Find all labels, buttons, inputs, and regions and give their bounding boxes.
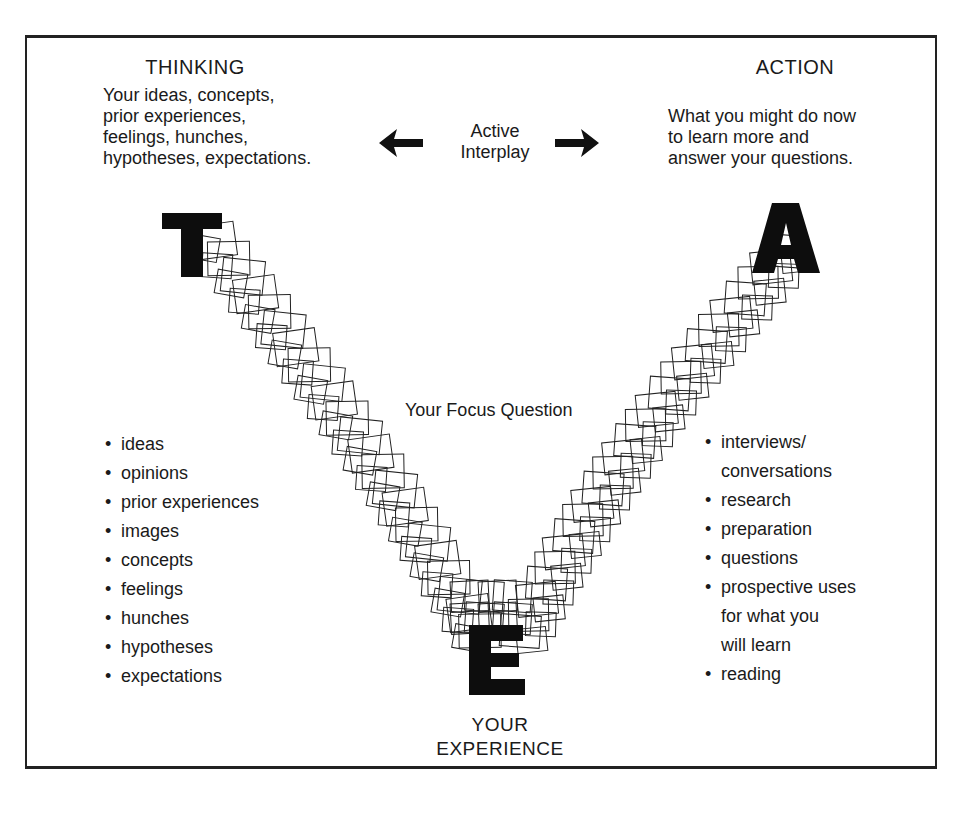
list-item: interviews/	[705, 428, 856, 457]
arrow-left-icon	[379, 127, 425, 159]
list-item: opinions	[105, 459, 259, 488]
letter-t-icon	[162, 213, 232, 283]
interplay-line: Interplay	[445, 142, 545, 163]
letter-e-icon	[469, 625, 529, 697]
list-item: prospective uses	[705, 573, 856, 602]
action-description-line: What you might do now	[668, 106, 928, 127]
thinking-heading: THINKING	[100, 56, 290, 79]
experience-label: YOUR EXPERIENCE	[400, 713, 600, 761]
thinking-description-line: prior experiences,	[103, 106, 403, 127]
list-item: expectations	[105, 662, 259, 691]
list-item: ideas	[105, 430, 259, 459]
list-item: concepts	[105, 546, 259, 575]
action-description-line: to learn more and	[668, 127, 928, 148]
list-item: questions	[705, 544, 856, 573]
letter-a-icon	[750, 195, 825, 275]
list-item-continuation: will learn	[705, 631, 856, 660]
experience-line: YOUR	[400, 713, 600, 737]
thinking-description-line: Your ideas, concepts,	[103, 85, 403, 106]
action-heading: ACTION	[720, 56, 870, 79]
thinking-list: ideas opinions prior experiences images …	[105, 430, 259, 691]
list-item: preparation	[705, 515, 856, 544]
list-item: feelings	[105, 575, 259, 604]
thinking-description-line: hypotheses, expectations.	[103, 148, 403, 169]
interplay-line: Active	[445, 121, 545, 142]
list-item: reading	[705, 660, 856, 689]
active-interplay-label: Active Interplay	[445, 121, 545, 163]
action-list: interviews/ conversations research prepa…	[705, 428, 856, 689]
list-item: hunches	[105, 604, 259, 633]
focus-question-label: Your Focus Question	[405, 400, 605, 421]
list-item-continuation: for what you	[705, 602, 856, 631]
action-description: What you might do now to learn more and …	[668, 106, 928, 169]
arrow-right-icon	[553, 127, 599, 159]
action-description-line: answer your questions.	[668, 148, 928, 169]
list-item: research	[705, 486, 856, 515]
list-item-continuation: conversations	[705, 457, 856, 486]
list-item: prior experiences	[105, 488, 259, 517]
list-item: images	[105, 517, 259, 546]
thinking-description: Your ideas, concepts, prior experiences,…	[103, 85, 403, 169]
experience-line: EXPERIENCE	[400, 737, 600, 761]
list-item: hypotheses	[105, 633, 259, 662]
thinking-description-line: feelings, hunches,	[103, 127, 403, 148]
